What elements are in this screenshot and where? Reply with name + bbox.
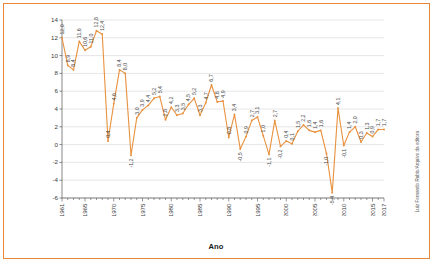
svg-text:0,3: 0,3 (358, 131, 364, 138)
data-points (61, 30, 385, 194)
svg-text:12,4: 12,4 (99, 21, 105, 31)
svg-text:-6: -6 (52, 194, 58, 201)
plot-area: -6-4-202468101214 1961196519701975198019… (44, 14, 388, 216)
svg-text:1,7: 1,7 (381, 119, 387, 126)
svg-text:5,4: 5,4 (157, 86, 163, 93)
svg-text:1990: 1990 (225, 203, 232, 216)
svg-text:2000: 2000 (282, 203, 289, 216)
svg-text:12,0: 12,0 (59, 24, 65, 34)
svg-text:5,2: 5,2 (191, 88, 197, 95)
data-series-line (62, 31, 384, 193)
svg-text:8,4: 8,4 (70, 59, 76, 66)
svg-text:4: 4 (55, 105, 59, 112)
svg-text:4,6: 4,6 (111, 93, 117, 100)
x-axis-title: Ano (44, 242, 388, 251)
svg-text:-1,2: -1,2 (128, 158, 134, 167)
svg-text:2017: 2017 (380, 203, 387, 216)
svg-text:-0,5: -0,5 (237, 152, 243, 161)
svg-text:2,7: 2,7 (272, 110, 278, 117)
line-chart: -6-4-202468101214 1961196519701975198019… (44, 14, 388, 216)
svg-text:1,6: 1,6 (318, 120, 324, 127)
svg-text:3,4: 3,4 (231, 104, 237, 111)
svg-text:-1,1: -1,1 (266, 158, 272, 167)
svg-text:8: 8 (55, 69, 59, 76)
svg-text:-0,1: -0,1 (341, 149, 347, 158)
svg-text:6: 6 (55, 87, 59, 94)
svg-text:4,2: 4,2 (168, 97, 174, 104)
svg-text:3,0: 3,0 (134, 107, 140, 114)
svg-text:6,7: 6,7 (208, 74, 214, 81)
svg-text:4,1: 4,1 (335, 97, 341, 104)
svg-text:1961: 1961 (58, 203, 65, 216)
svg-text:-2: -2 (52, 158, 58, 165)
svg-text:-4: -4 (52, 176, 58, 183)
svg-text:12: 12 (51, 34, 58, 41)
svg-text:1,0: 1,0 (260, 125, 266, 132)
figure-container: Taxa de crescimento (em %) -6-4-20246810… (0, 0, 433, 262)
svg-text:2,8: 2,8 (162, 109, 168, 116)
svg-text:1980: 1980 (167, 203, 174, 216)
svg-text:4,9: 4,9 (220, 90, 226, 97)
svg-text:-1,0: -1,0 (323, 157, 329, 166)
svg-text:1970: 1970 (110, 203, 117, 216)
svg-text:0,8: 0,8 (226, 127, 232, 134)
svg-text:11,0: 11,0 (88, 34, 94, 44)
svg-text:11,6: 11,6 (76, 28, 82, 38)
svg-text:10: 10 (51, 52, 58, 59)
svg-text:-0,2: -0,2 (277, 150, 283, 159)
svg-text:3,1: 3,1 (254, 106, 260, 113)
plot-wrapper: Taxa de crescimento (em %) -6-4-20246810… (44, 14, 388, 216)
svg-text:3,5: 3,5 (180, 103, 186, 110)
svg-text:0,4: 0,4 (105, 130, 111, 137)
svg-text:4,7: 4,7 (203, 92, 209, 99)
svg-text:3,3: 3,3 (197, 105, 203, 112)
x-axis: 1961196519701975198019851990199520002005… (58, 198, 387, 216)
svg-text:0,9: 0,9 (243, 126, 249, 133)
y-axis: -6-4-202468101214 (51, 16, 62, 201)
svg-text:2010: 2010 (340, 203, 347, 216)
svg-text:2005: 2005 (311, 203, 318, 216)
svg-text:14: 14 (51, 16, 58, 23)
svg-text:2015: 2015 (369, 203, 376, 216)
svg-text:2,0: 2,0 (352, 116, 358, 123)
svg-text:0,1: 0,1 (289, 133, 295, 140)
gridlines (62, 20, 384, 198)
svg-text:1965: 1965 (81, 203, 88, 216)
svg-text:0: 0 (55, 141, 59, 148)
credit-holder: Luiz Fernando Rubio/Arquivo da editora (409, 0, 423, 262)
svg-text:1995: 1995 (254, 203, 261, 216)
svg-text:1985: 1985 (196, 203, 203, 216)
credit-text: Luiz Fernando Rubio/Arquivo da editora (415, 131, 420, 212)
svg-text:-5,4: -5,4 (329, 196, 335, 205)
svg-text:2: 2 (55, 123, 59, 130)
svg-text:1975: 1975 (139, 203, 146, 216)
svg-text:8,0: 8,0 (122, 63, 128, 70)
